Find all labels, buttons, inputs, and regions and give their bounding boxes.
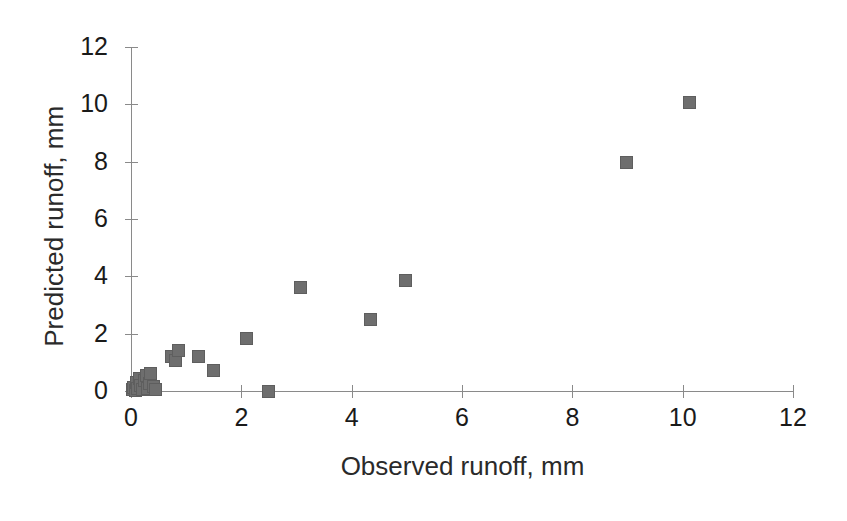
- y-tick-label-4: 4: [68, 263, 108, 288]
- x-tick-label-8: 8: [542, 405, 602, 430]
- y-tick-8: [125, 162, 138, 163]
- scatter-chart-figure: 024681012 024681012 Observed runoff, mm …: [0, 0, 847, 521]
- x-tick-6: [462, 385, 463, 398]
- data-point: [207, 364, 220, 377]
- y-tick-label-12: 12: [68, 34, 108, 59]
- data-point: [240, 332, 253, 345]
- x-tick-label-2: 2: [211, 405, 271, 430]
- data-point: [683, 96, 696, 109]
- data-point: [149, 383, 162, 396]
- y-tick-6: [125, 219, 138, 220]
- plot-area: 024681012 024681012 Observed runoff, mm …: [0, 0, 847, 521]
- data-point: [192, 350, 205, 363]
- data-point: [364, 313, 377, 326]
- x-tick-8: [572, 385, 573, 398]
- y-axis-title: Predicted runoff, mm: [40, 56, 69, 396]
- data-point: [294, 281, 307, 294]
- x-tick-12: [793, 385, 794, 398]
- x-tick-label-6: 6: [432, 405, 492, 430]
- y-tick-label-10: 10: [68, 91, 108, 116]
- x-tick-label-0: 0: [101, 405, 161, 430]
- x-tick-label-4: 4: [322, 405, 382, 430]
- y-tick-12: [125, 47, 138, 48]
- data-point: [172, 344, 185, 357]
- x-axis-title: Observed runoff, mm: [131, 452, 794, 481]
- x-tick-10: [683, 385, 684, 398]
- data-point: [620, 156, 633, 169]
- y-tick-10: [125, 104, 138, 105]
- x-tick-4: [352, 385, 353, 398]
- y-tick-2: [125, 334, 138, 335]
- y-tick-label-8: 8: [68, 149, 108, 174]
- y-tick-label-0: 0: [68, 378, 108, 403]
- data-point: [144, 367, 157, 380]
- x-tick-label-12: 12: [763, 405, 823, 430]
- data-point: [399, 274, 412, 287]
- y-tick-4: [125, 276, 138, 277]
- y-tick-label-2: 2: [68, 321, 108, 346]
- x-tick-2: [241, 385, 242, 398]
- data-point: [262, 385, 275, 398]
- x-tick-label-10: 10: [653, 405, 713, 430]
- y-tick-label-6: 6: [68, 206, 108, 231]
